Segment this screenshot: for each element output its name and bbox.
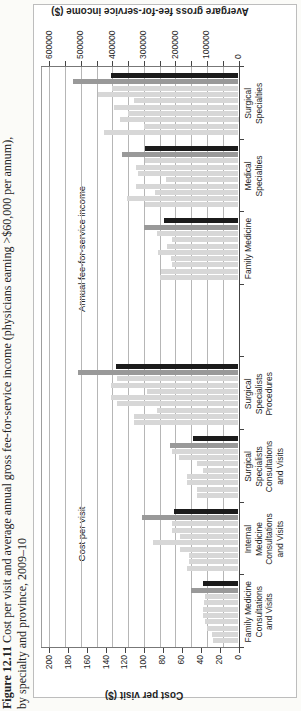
right-axis-tick-label: 500000 — [76, 15, 85, 59]
bar — [197, 487, 239, 492]
category-label-line: Family Medicine — [243, 212, 254, 285]
category-label: InternalMedicineConsultationsand Visits — [243, 503, 285, 576]
bar — [104, 130, 238, 135]
bar — [203, 613, 239, 618]
right-axis-tick-label: 100000 — [202, 15, 211, 59]
right-axis-tick-label: 600000 — [45, 15, 54, 59]
gridline — [81, 67, 82, 648]
category-label-line: Family Medicine — [243, 575, 254, 648]
bar — [166, 177, 239, 182]
bar — [111, 383, 239, 388]
gridline — [97, 67, 98, 648]
left-axis-tick — [239, 648, 240, 653]
bar — [207, 626, 238, 631]
right-axis-tick-label: 200000 — [171, 15, 180, 59]
left-axis-tick — [163, 648, 164, 653]
category-label: MedicalSpecialties — [243, 140, 264, 213]
figure-number: Figure 12.11 — [0, 646, 14, 709]
bar — [144, 124, 239, 129]
right-axis-tick-label: 300000 — [139, 15, 148, 59]
bar — [189, 559, 238, 564]
bar — [98, 92, 238, 97]
bar — [191, 588, 238, 593]
category-label-line: Surgical — [243, 67, 254, 140]
bar — [117, 401, 238, 406]
left-axis-tick — [182, 648, 183, 653]
category-label: SurgicalSpecialistsConsultationsand Visi… — [243, 430, 285, 503]
bar — [180, 534, 239, 539]
left-axis-tick-label: 0 — [234, 655, 243, 685]
figure-caption-text: Cost per visit and average annual gross … — [0, 137, 14, 643]
bar — [142, 515, 238, 520]
bar — [171, 256, 239, 261]
category-label-line: and Visits — [275, 430, 286, 503]
left-axis-tick — [220, 648, 221, 653]
category-label-line: Procedures — [264, 358, 275, 431]
bar — [111, 395, 239, 400]
left-axis-tick-label: 200 — [45, 655, 54, 685]
left-axis-tick-label: 60 — [177, 655, 186, 685]
left-axis-title: Cost per visit ($) — [105, 690, 183, 701]
bar — [172, 521, 238, 526]
left-axis-tick-label: 160 — [83, 655, 92, 685]
gridline — [112, 67, 113, 648]
bar — [172, 262, 238, 267]
figure-caption-line2: by specialty and province, 2009–10 — [15, 0, 30, 709]
bar — [157, 408, 238, 413]
category-label-line: Specialists — [254, 358, 265, 431]
right-axis-tick — [207, 61, 208, 66]
bar — [187, 566, 238, 571]
bar — [179, 455, 239, 460]
right-axis-tick — [65, 61, 66, 66]
category-label-line: Surgical — [243, 358, 254, 431]
category-label-line: Specialists — [254, 430, 265, 503]
bar — [122, 152, 239, 157]
plot-border-right — [41, 66, 239, 67]
left-axis-tick — [125, 648, 126, 653]
bar — [164, 218, 238, 223]
bar — [78, 370, 239, 375]
right-axis-tick — [160, 61, 161, 66]
plot-border-left — [41, 647, 239, 648]
category-label-line: Consultations — [264, 503, 275, 576]
category-label-line: Medicine — [254, 503, 265, 576]
right-axis-tick — [49, 61, 50, 66]
bar — [189, 553, 238, 558]
rotated-chart-figure: Figure 12.11 Cost per visit and average … — [0, 0, 301, 711]
bar — [114, 105, 239, 110]
bar — [174, 509, 238, 514]
bar — [134, 98, 238, 103]
bar — [112, 86, 238, 91]
bar — [187, 480, 238, 485]
bar — [145, 146, 238, 151]
bar — [116, 364, 239, 369]
bar — [128, 111, 238, 116]
bar — [145, 202, 238, 207]
category-label-line: Consultations — [264, 430, 275, 503]
left-axis-tick — [68, 648, 69, 653]
bar — [157, 231, 239, 236]
bar — [144, 225, 239, 230]
category-label-line: Surgical — [243, 430, 254, 503]
left-axis-tick — [87, 648, 88, 653]
bar — [161, 269, 238, 274]
gridline — [65, 67, 66, 648]
right-axis-tick — [97, 61, 98, 66]
bar — [136, 184, 238, 189]
right-axis-tick — [112, 61, 113, 66]
bar — [203, 468, 239, 473]
right-axis-tick — [191, 61, 192, 66]
right-axis-tick — [223, 61, 224, 66]
bar — [205, 619, 238, 624]
bar — [111, 73, 239, 78]
bar — [193, 436, 238, 441]
bar — [205, 594, 238, 599]
left-axis-tick-label: 80 — [158, 655, 167, 685]
right-axis-tick-label: 0 — [234, 15, 243, 59]
bar — [127, 196, 239, 201]
category-label-line: Consultations — [254, 575, 265, 648]
bar — [204, 600, 238, 605]
category-label-line: Specialties — [254, 67, 265, 140]
bar — [172, 449, 238, 454]
left-axis-tick — [49, 648, 50, 653]
